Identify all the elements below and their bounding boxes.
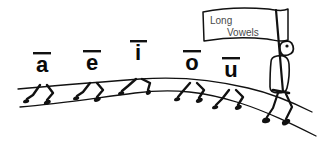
macron-e (83, 50, 101, 52)
illustration-svg: a e i o u (0, 0, 335, 149)
flag-line-2: Vowels (227, 27, 259, 38)
vowel-letter-i: i (135, 40, 141, 65)
macron-i (130, 40, 147, 42)
vowel-long-u: u (222, 57, 240, 82)
vowel-long-i: i (130, 40, 147, 65)
vowel-letters: a e i o u (33, 40, 240, 82)
flag-line-1: Long (210, 15, 232, 26)
bearer-eye (285, 44, 288, 47)
lower-ground-line (20, 91, 316, 136)
macron-o (183, 50, 201, 52)
vowel-long-a: a (33, 52, 51, 77)
illustration-canvas: a e i o u (0, 0, 335, 149)
vowel-letter-a: a (36, 52, 49, 77)
macron-a (33, 52, 51, 54)
bearer-foot-left (262, 117, 270, 123)
ground-lines (18, 78, 316, 136)
macron-u (222, 57, 240, 59)
upper-ground-line (18, 78, 312, 112)
vowel-letter-u: u (224, 57, 237, 82)
vowel-letter-o: o (185, 50, 198, 75)
vowel-long-e: e (83, 50, 101, 75)
bearer-head (280, 41, 294, 55)
vowel-letter-e: e (86, 50, 98, 75)
vowel-long-o: o (183, 50, 201, 75)
